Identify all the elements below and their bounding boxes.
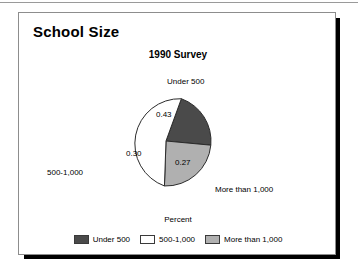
callout-under-500: Under 500 (167, 77, 204, 86)
callout-more-than-1000: More than 1,000 (215, 185, 273, 194)
axis-caption: Percent (19, 215, 337, 224)
legend-swatch-500-1000 (140, 235, 155, 244)
slice-value-more-than-1000: 0.27 (175, 158, 191, 167)
legend-swatch-under-500 (74, 235, 89, 244)
legend-item-more-than-1000: More than 1,000 (205, 235, 282, 244)
chart-legend: Under 500 500-1,000 More than 1,000 (19, 235, 337, 244)
top-rule (0, 2, 358, 3)
legend-item-500-1000: 500-1,000 (140, 235, 195, 244)
slice-value-under-500: 0.43 (156, 110, 172, 119)
legend-swatch-more-than-1000 (205, 235, 220, 244)
legend-label-more-than-1000: More than 1,000 (224, 235, 282, 244)
figure-card: School Size 1990 Survey 0.43 0.30 0.27 U… (18, 12, 336, 255)
legend-label-under-500: Under 500 (93, 235, 130, 244)
legend-item-under-500: Under 500 (74, 235, 130, 244)
legend-label-500-1000: 500-1,000 (159, 235, 195, 244)
callout-500-1000: 500-1,000 (47, 168, 83, 177)
slice-value-500-1000: 0.30 (126, 149, 142, 158)
